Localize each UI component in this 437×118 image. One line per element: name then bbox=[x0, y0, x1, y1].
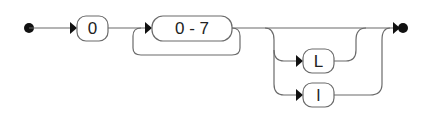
terminal-upper-l: L bbox=[303, 49, 334, 73]
svg-text:0: 0 bbox=[88, 19, 97, 38]
svg-text:0 - 7: 0 - 7 bbox=[175, 19, 209, 38]
terminal-range: 0 - 7 bbox=[152, 16, 232, 41]
railroad-diagram: 0 0 - 7 L l bbox=[0, 0, 437, 118]
arrow-icon bbox=[70, 22, 77, 34]
branch-upper bbox=[265, 28, 296, 61]
arrow-icon bbox=[296, 89, 303, 101]
terminal-lower-l: l bbox=[303, 83, 334, 107]
arrow-icon bbox=[296, 55, 303, 67]
end-marker bbox=[398, 23, 408, 33]
branch-upper-return bbox=[334, 28, 366, 61]
svg-text:L: L bbox=[314, 52, 323, 71]
terminal-zero: 0 bbox=[77, 16, 108, 41]
arrow-icon bbox=[145, 22, 152, 34]
svg-text:l: l bbox=[317, 86, 321, 105]
branch-lower bbox=[274, 50, 296, 95]
